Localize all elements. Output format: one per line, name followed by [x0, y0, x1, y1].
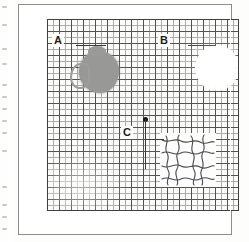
- annotation-label-a: A: [52, 34, 64, 47]
- leader-line-c-horizontal: [146, 139, 164, 140]
- scan-speck: [2, 150, 7, 152]
- scan-speck: [2, 186, 7, 188]
- scan-speck: [2, 120, 7, 122]
- scan-speck: [2, 48, 7, 50]
- scan-margin-artifacts: [0, 0, 14, 242]
- annotation-label-c: C: [121, 126, 133, 139]
- leader-line-a: [76, 45, 106, 46]
- scan-speck: [2, 6, 7, 8]
- leader-line-c-vertical: [145, 119, 146, 169]
- scan-speck: [2, 108, 7, 110]
- scan-speck: [2, 216, 7, 218]
- leader-line-b: [188, 45, 216, 46]
- scan-speck: [2, 132, 7, 134]
- annotation-label-b: B: [158, 34, 170, 47]
- scan-speck: [2, 228, 7, 230]
- scan-speck: [2, 204, 7, 206]
- feature-a-scotoma-blob: [79, 51, 119, 93]
- scan-speck: [2, 24, 7, 26]
- scan-speck: [2, 63, 7, 65]
- feature-c-distorted-grid: [160, 133, 216, 187]
- scan-speck: [2, 84, 7, 86]
- scan-speck: [2, 96, 7, 98]
- wavy-grid-svg: [160, 133, 216, 187]
- feature-b-blank-area: [195, 45, 239, 91]
- figure-frame: [18, 4, 232, 235]
- amsler-grid: [47, 19, 239, 211]
